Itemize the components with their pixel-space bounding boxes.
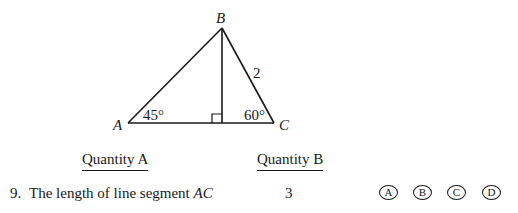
angle-c-label: 60° <box>244 108 265 123</box>
triangle-figure: B A C 45° 60° 2 <box>0 0 518 140</box>
choice-c-bubble[interactable]: C <box>447 185 466 200</box>
vertex-label-a: A <box>113 118 122 133</box>
vertex-label-c: C <box>279 118 289 133</box>
quantity-a-header: Quantity A <box>82 150 148 171</box>
quantity-a-text: The length of line segment <box>29 185 190 201</box>
question-number: 9. <box>10 185 21 201</box>
choice-a-bubble[interactable]: A <box>379 185 398 200</box>
side-bc-length: 2 <box>253 66 261 81</box>
choice-b-bubble[interactable]: B <box>413 185 432 200</box>
angle-a-label: 45° <box>143 108 164 123</box>
quantity-b-value: 3 <box>285 184 293 202</box>
question-quantity-a: 9. The length of line segment AC <box>10 184 213 202</box>
vertex-label-b: B <box>216 11 225 26</box>
choice-d-bubble[interactable]: D <box>482 185 501 200</box>
quantity-b-header: Quantity B <box>257 150 323 171</box>
right-angle-marker <box>212 114 222 123</box>
quantity-a-variable: AC <box>194 185 213 201</box>
